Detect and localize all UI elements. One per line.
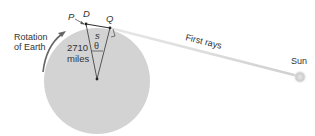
point-q (109, 27, 112, 30)
label-p: P (68, 11, 75, 22)
label-sun: Sun (291, 56, 307, 66)
label-s: s (95, 30, 100, 41)
label-d: D (83, 8, 90, 19)
earth-sun-diagram: P D Q s θ 2710 miles Rotation of Earth F… (0, 0, 315, 136)
dq-line (86, 24, 110, 28)
label-distance-1: 2710 (67, 42, 88, 53)
label-q: Q (106, 13, 114, 24)
point-d (85, 23, 88, 26)
label-distance-2: miles (67, 53, 89, 64)
label-rotation-2: of Earth (14, 42, 46, 52)
label-rotation-1: Rotation (14, 32, 48, 42)
label-theta: θ (94, 41, 99, 51)
point-center (96, 78, 99, 81)
sun-icon (293, 70, 307, 84)
p-arrowhead (81, 21, 86, 25)
